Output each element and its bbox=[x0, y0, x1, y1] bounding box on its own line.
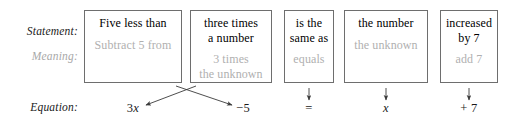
phrase-box-3: is the same as equals bbox=[284, 10, 334, 83]
phrase-box-4: the number the unknown bbox=[344, 10, 428, 83]
phrase-box-3-meaning: equals bbox=[293, 52, 324, 67]
equation-term-3x: 3x bbox=[112, 101, 154, 116]
phrase-box-5-meaning: add 7 bbox=[456, 52, 483, 67]
statement-to-equation-diagram: Statement: Meaning: Equation: Five less … bbox=[0, 0, 508, 127]
row-label-equation: Equation: bbox=[0, 101, 78, 113]
phrase-box-4-statement: the number bbox=[358, 16, 413, 31]
phrase-box-1: Five less than Subtract 5 from bbox=[84, 10, 182, 83]
phrase-box-2: three times a number 3 times the unknown bbox=[190, 10, 272, 83]
phrase-box-4-meaning: the unknown bbox=[354, 38, 417, 53]
equation-term-x-variable: x bbox=[383, 101, 389, 115]
row-label-statement: Statement: bbox=[0, 25, 78, 37]
phrase-box-5: increased by 7 add 7 bbox=[440, 10, 498, 83]
phrase-box-2-meaning: 3 times the unknown bbox=[199, 52, 262, 81]
phrase-box-1-meaning: Subtract 5 from bbox=[95, 38, 172, 53]
equation-term-3x-variable: x bbox=[133, 101, 139, 115]
equation-term-plus-7: + 7 bbox=[448, 101, 490, 116]
row-label-meaning: Meaning: bbox=[0, 50, 78, 62]
phrase-box-1-statement: Five less than bbox=[99, 16, 166, 31]
phrase-box-2-statement: three times a number bbox=[204, 16, 258, 45]
equation-term-equals: = bbox=[288, 101, 330, 116]
equation-term-x: x bbox=[365, 101, 407, 116]
phrase-box-3-statement: is the same as bbox=[290, 16, 328, 45]
equation-term-minus-5: −5 bbox=[222, 101, 264, 116]
phrase-box-5-statement: increased by 7 bbox=[446, 16, 492, 45]
